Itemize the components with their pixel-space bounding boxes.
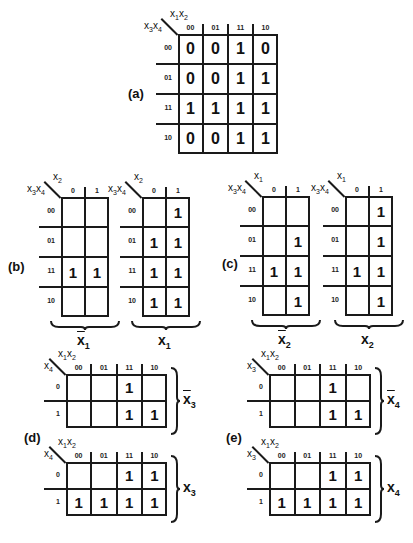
panel-label: (e) xyxy=(226,430,242,445)
brace-right xyxy=(0,0,413,543)
brace-label: x4 xyxy=(387,479,400,498)
